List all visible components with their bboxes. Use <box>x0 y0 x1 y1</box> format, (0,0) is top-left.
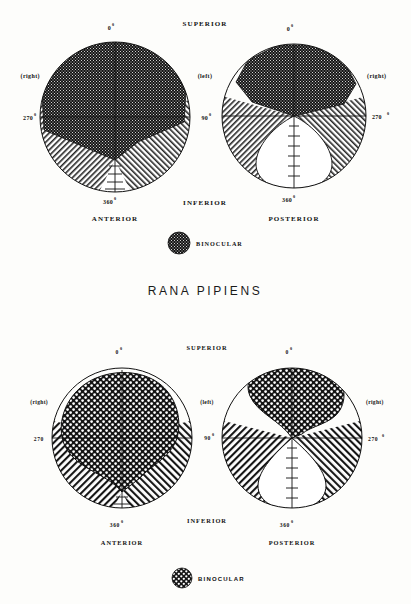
degree-superscript-90-top: 0 <box>209 112 212 117</box>
legend-label-binocular-bottom: BINOCULAR <box>198 576 245 582</box>
degree-label-360-top-right: 360 <box>282 197 292 203</box>
degree-superscript-360-top-left: 0 <box>114 196 117 201</box>
figure-plate: 0 0 270 0 360 0 (right) ANTERIOR <box>0 0 411 604</box>
degree-label-360-bottom-right: 360 <box>280 522 290 528</box>
legend-swatch-binocular-bottom <box>172 568 192 588</box>
diagram-bottom-anterior: 0 0 270 360 0 (right) ANTERIOR <box>30 346 194 546</box>
degree-label-270-bottom-right: 270 <box>368 436 378 442</box>
side-label-left-bottom: (left) <box>200 399 213 406</box>
degree-label-0-top-right: 0 <box>287 26 290 32</box>
page-title: RANA PIPIENS <box>148 284 263 298</box>
degree-superscript-360-bottom-right: 0 <box>291 519 294 524</box>
degree-superscript-0-top-left: 0 <box>112 22 115 27</box>
diagram-bottom-posterior: 0 0 270 0 360 0 (right) POSTERIOR <box>220 346 385 546</box>
degree-superscript-90-bottom: 0 <box>212 432 215 437</box>
degree-superscript-360-top-right: 0 <box>293 194 296 199</box>
degree-superscript-270-bottom-right: 0 <box>382 433 385 438</box>
view-label-anterior-top: ANTERIOR <box>92 215 139 223</box>
diagram-top-anterior: 0 0 270 0 360 0 (right) ANTERIOR <box>21 22 190 223</box>
degree-label-360-bottom-left: 360 <box>110 522 120 528</box>
cardinal-label-superior-bottom: SUPERIOR <box>186 344 227 351</box>
binocular-field <box>248 359 344 438</box>
legend-swatch-binocular-top <box>168 232 190 254</box>
panel-bottom: 0 0 270 360 0 (right) ANTERIOR <box>30 344 384 588</box>
degree-label-0-bottom-right: 0 <box>286 349 289 355</box>
diagram-top-posterior: 0 0 270 0 360 0 (right) POSTERIOR <box>222 23 390 223</box>
side-label-bottom-right: (right) <box>366 399 384 406</box>
side-label-bottom-left: (right) <box>30 399 48 406</box>
degree-label-270-bottom-left: 270 <box>34 436 44 442</box>
degree-label-270-top-right: 270 <box>372 114 382 120</box>
view-label-anterior-bottom: ANTERIOR <box>101 539 143 546</box>
degree-label-270-top-left: 270 <box>23 115 33 121</box>
degree-label-90-bottom: 90 <box>204 435 211 441</box>
panel-top: 0 0 270 0 360 0 (right) ANTERIOR <box>21 20 390 254</box>
view-label-posterior-top: POSTERIOR <box>268 215 319 223</box>
degree-label-0-bottom-left: 0 <box>116 349 119 355</box>
degree-label-90-top: 90 <box>201 115 208 121</box>
legend-label-binocular-top: BINOCULAR <box>196 240 243 247</box>
visual-field-figure: 0 0 270 0 360 0 (right) ANTERIOR <box>0 0 411 604</box>
degree-superscript-270-top-left: 0 <box>34 112 37 117</box>
degree-label-0-top-left: 0 <box>108 25 111 31</box>
degree-superscript-0-bottom-left: 0 <box>120 346 123 351</box>
side-label-top-right: (right) <box>367 73 386 80</box>
degree-superscript-0-bottom-right: 0 <box>290 346 293 351</box>
degree-superscript-360-bottom-left: 0 <box>121 519 124 524</box>
cardinal-label-inferior-bottom: INFERIOR <box>187 517 227 524</box>
cardinal-label-superior-top: SUPERIOR <box>183 20 228 28</box>
degree-superscript-270-top-right: 0 <box>387 111 390 116</box>
degree-superscript-0-top-right: 0 <box>291 23 294 28</box>
cardinal-label-inferior-top: INFERIOR <box>183 199 227 207</box>
side-label-top-left: (right) <box>21 73 40 80</box>
view-label-posterior-bottom: POSTERIOR <box>269 539 316 546</box>
side-label-left-top: (left) <box>198 73 213 80</box>
degree-label-360-top-left: 360 <box>103 199 113 205</box>
